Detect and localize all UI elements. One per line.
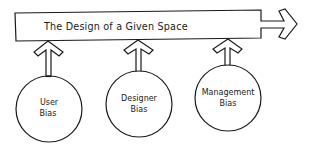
designer-bias-label-line2: Bias xyxy=(131,105,148,114)
management-bias-label-line1: Management xyxy=(202,88,255,97)
management-bias-input: Management Bias xyxy=(195,39,261,131)
user-bias-input: User Bias xyxy=(16,41,82,142)
designer-bias-circle xyxy=(106,71,172,137)
management-bias-circle xyxy=(195,65,261,131)
user-bias-label-line2: Bias xyxy=(40,109,57,118)
user-bias-label-line1: User xyxy=(40,98,59,107)
management-bias-label-line2: Bias xyxy=(220,99,237,108)
bias-diagram: The Design of a Given Space User Bias De… xyxy=(0,0,312,145)
designer-bias-input: Designer Bias xyxy=(106,40,172,137)
designer-bias-up-arrow-icon xyxy=(124,40,153,72)
user-bias-up-arrow-icon xyxy=(34,41,63,76)
designer-bias-label-line1: Designer xyxy=(121,94,158,103)
design-space-title: The Design of a Given Space xyxy=(43,21,188,32)
design-space-arrow: The Design of a Given Space xyxy=(15,9,297,41)
management-bias-up-arrow-icon xyxy=(213,39,242,66)
